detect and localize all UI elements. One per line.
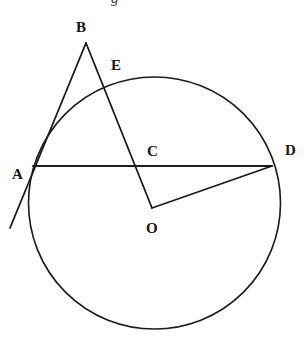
point-label-o: O [146, 221, 158, 236]
geometry-figure: g B E C D A O [0, 0, 305, 338]
point-label-d: D [285, 143, 296, 158]
point-label-e: E [111, 58, 121, 73]
tangent-line-b-to-a-extended [10, 43, 86, 228]
main-circle [29, 77, 281, 329]
point-label-c: C [147, 144, 158, 159]
geometry-canvas [0, 0, 305, 338]
radius-o-to-d [152, 166, 272, 208]
point-label-b: B [76, 20, 86, 35]
point-label-a: A [12, 167, 23, 182]
